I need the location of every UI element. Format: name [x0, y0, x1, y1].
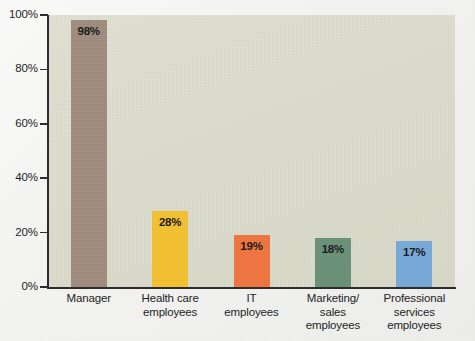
x-category-label-line: Professional [374, 292, 455, 306]
bar[interactable]: 17% [396, 241, 432, 287]
y-tick-label: 40% [0, 171, 38, 183]
bar-value-label: 28% [152, 216, 188, 228]
x-category-label-line: sales [292, 306, 373, 320]
bar-value-label: 18% [315, 243, 351, 255]
bar-texture-overlay [71, 20, 107, 287]
x-category-label-line: employees [374, 319, 455, 333]
x-category-label-line: IT [211, 292, 292, 306]
x-category-label-line: services [374, 306, 455, 320]
x-category-label-line: employees [211, 306, 292, 320]
y-tick-label: 60% [0, 117, 38, 129]
bar[interactable]: 19% [234, 235, 270, 287]
x-category-label-line: Health care [129, 292, 210, 306]
y-axis-line [47, 15, 49, 288]
y-tick-label: 0% [0, 280, 38, 292]
x-category-label: ITemployees [211, 292, 292, 319]
y-tick-mark [40, 14, 48, 16]
x-category-label: Health careemployees [129, 292, 210, 319]
x-axis-line [47, 287, 456, 289]
x-category-label-line: Marketing/ [292, 292, 373, 306]
y-tick-mark [40, 123, 48, 125]
y-tick-label: 100% [0, 8, 38, 20]
y-tick-mark [40, 232, 48, 234]
x-category-label-line: Manager [48, 292, 129, 306]
bar[interactable]: 98% [71, 20, 107, 287]
y-tick-mark [40, 286, 48, 288]
y-axis-tick-labels: 0%20%40%60%80%100% [0, 0, 38, 341]
y-tick-label: 80% [0, 62, 38, 74]
y-tick-label: 20% [0, 226, 38, 238]
bar-value-label: 98% [71, 25, 107, 37]
bar[interactable]: 18% [315, 238, 351, 287]
x-category-label: Professionalservicesemployees [374, 292, 455, 333]
bar-chart: 0%20%40%60%80%100% 98%28%19%18%17% Manag… [0, 0, 475, 341]
x-category-label: Manager [48, 292, 129, 306]
x-category-label-line: employees [129, 306, 210, 320]
x-category-label-line: employees [292, 319, 373, 333]
bar[interactable]: 28% [152, 211, 188, 287]
bar-value-label: 19% [234, 240, 270, 252]
y-tick-mark [40, 177, 48, 179]
y-tick-mark [40, 69, 48, 71]
x-category-label: Marketing/salesemployees [292, 292, 373, 333]
bar-value-label: 17% [396, 246, 432, 258]
